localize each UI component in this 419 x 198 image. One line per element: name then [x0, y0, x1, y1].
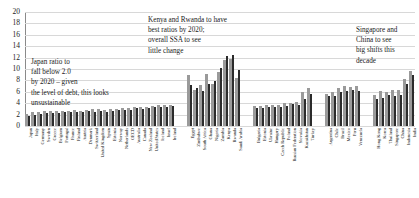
x-axis-tick-label: Rwanda — [233, 128, 238, 142]
x-axis-tick-label: Greece — [53, 128, 58, 140]
bar — [208, 84, 210, 126]
bar — [268, 107, 270, 126]
x-axis-tick-label: Belgium — [59, 128, 64, 143]
x-axis-tick-label: Russian Federation — [293, 128, 298, 162]
bar — [94, 112, 96, 126]
y-axis-tick-label: 14 — [2, 42, 20, 50]
x-axis-tick-label: Germany — [41, 128, 46, 144]
bar — [190, 85, 192, 126]
x-axis-tick-label: Nigeria — [215, 128, 220, 141]
bar — [328, 96, 330, 126]
bar — [304, 99, 306, 126]
y-axis-tick-label: 2 — [2, 111, 20, 119]
bar — [274, 107, 276, 126]
bar — [148, 108, 150, 126]
bar — [280, 107, 282, 126]
bar — [340, 92, 342, 126]
x-axis-tick-label: Austria — [83, 128, 88, 141]
bar — [166, 107, 168, 126]
bar — [88, 111, 90, 126]
bar — [394, 96, 396, 126]
x-axis-tick-label: Netherlands — [125, 128, 130, 149]
x-axis-tick-label: Saudi Arabia — [239, 128, 244, 151]
bar — [130, 110, 132, 126]
bar — [310, 94, 312, 126]
x-axis-tick-label: Zimbabwe — [197, 128, 202, 147]
y-axis-tick-label: 0 — [2, 122, 20, 130]
x-axis-tick-label: Brazil — [341, 128, 346, 139]
bar — [64, 112, 66, 126]
annotation-japan: Japan ratio to fall below 2.0 by 2020 – … — [31, 57, 119, 108]
x-axis-tick-label: Iceland — [161, 128, 166, 141]
bar — [160, 107, 162, 126]
x-axis-tick-label: Finland — [77, 128, 82, 141]
x-axis-tick-label: Mexico — [347, 128, 352, 141]
bar — [172, 106, 174, 126]
bar — [292, 104, 294, 126]
bar — [196, 88, 198, 126]
bar — [46, 113, 48, 126]
x-axis-tick-label: Indonesia — [407, 128, 412, 145]
x-axis-tick-label: OECD — [131, 128, 136, 140]
bar — [406, 84, 408, 126]
bar — [298, 105, 300, 126]
bar — [118, 110, 120, 126]
bar — [388, 95, 390, 126]
x-axis-tick-label: Zambia — [221, 128, 226, 141]
y-axis-tick-label: 18 — [2, 19, 20, 27]
bar — [400, 95, 402, 126]
y-axis-tick-label: 8 — [2, 76, 20, 84]
x-axis-tick-label: Italy — [35, 128, 40, 136]
x-axis-tick-label: Peru — [353, 128, 358, 136]
bar — [154, 107, 156, 126]
x-axis-tick-label: Czech Republic — [281, 128, 286, 156]
bar — [136, 108, 138, 126]
bar — [142, 109, 144, 126]
bar — [124, 110, 126, 126]
bar — [28, 116, 30, 126]
x-axis-tick-label: Hong Kong — [377, 128, 382, 149]
y-axis-tick-label: 16 — [2, 31, 20, 39]
bar — [100, 111, 102, 126]
x-axis-tick-label: Bulgaria — [257, 128, 262, 143]
bar — [112, 111, 114, 126]
bar — [376, 99, 378, 126]
x-axis-tick-label: Slovakia — [299, 128, 304, 143]
bar — [202, 91, 204, 126]
y-axis-tick-label: 6 — [2, 88, 20, 96]
x-axis-tick-label: Korea — [383, 128, 388, 139]
bar — [412, 75, 414, 126]
x-axis-tick-label: Kenya — [227, 128, 232, 140]
bar — [334, 96, 336, 126]
x-axis-tick-label: Venezuela — [359, 128, 364, 146]
bar — [358, 91, 360, 126]
x-axis-tick-label: Argentina — [329, 128, 334, 145]
x-axis-tick-label: Ireland — [173, 128, 178, 140]
x-axis-tick-label: Kazakhstan — [305, 128, 310, 148]
x-axis-tick-label: Denmark — [89, 128, 94, 144]
x-axis-tick-label: Hungary — [275, 128, 280, 143]
bar — [106, 112, 108, 126]
x-axis-tick-label: Sweden — [47, 128, 52, 142]
bar — [352, 90, 354, 126]
x-axis-tick-label: Canada — [143, 128, 148, 141]
y-axis-tick-label: 20 — [2, 8, 20, 16]
x-axis-tick-label: Thailand — [389, 128, 394, 144]
y-axis-tick-label: 4 — [2, 99, 20, 107]
bar — [262, 108, 264, 126]
bar — [34, 115, 36, 126]
annotation-kenya-rwanda: Kenya and Rwanda to have best ratios by … — [148, 15, 248, 56]
bar — [76, 112, 78, 126]
y-axis-tick-label: 10 — [2, 65, 20, 73]
bar — [82, 112, 84, 126]
y-axis-tick-label: 12 — [2, 54, 20, 62]
bar — [58, 113, 60, 126]
x-axis-tick-label: Ghana — [209, 128, 214, 140]
x-axis-tick-label: Poland — [287, 128, 292, 140]
x-axis-tick-label: Turkey — [311, 128, 316, 141]
x-axis-tick-label: Australia — [137, 128, 142, 144]
bar — [226, 56, 228, 126]
x-axis-tick-label: Switzerland — [95, 128, 100, 149]
x-axis-tick-label: Japan — [29, 128, 34, 138]
x-axis-tick-label: New Zealand — [149, 128, 154, 152]
